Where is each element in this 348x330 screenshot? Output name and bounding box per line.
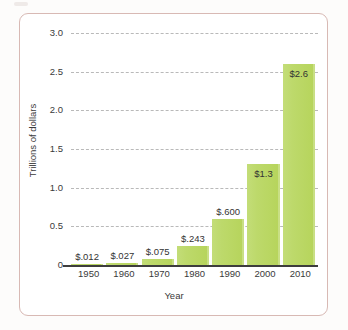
- x-axis-tick-label-2010: 2010: [283, 268, 318, 279]
- bar-2000: [247, 164, 279, 265]
- bar-1950: [71, 264, 103, 265]
- y-axis-label: Trillions of dollars: [27, 86, 38, 196]
- x-axis-tick-label-1970: 1970: [142, 268, 177, 279]
- gridline: [71, 33, 318, 34]
- y-axis-tick-label: 1.5: [23, 143, 63, 154]
- x-axis-tick-label-1950: 1950: [71, 268, 106, 279]
- gridline: [71, 110, 318, 111]
- x-axis-tick-label-1990: 1990: [212, 268, 247, 279]
- y-axis-tick-label: 0.5: [23, 220, 63, 231]
- y-axis-tick-label: 2.0: [23, 104, 63, 115]
- bar-2010: [283, 64, 315, 265]
- bar-value-label-1990: $.600: [206, 206, 250, 217]
- bar-value-label-1970: $.075: [136, 246, 180, 257]
- x-axis-label: Year: [0, 290, 348, 301]
- y-axis-tick-label: 0: [23, 259, 63, 270]
- gridline: [71, 226, 318, 227]
- y-axis-tick-label: 3.0: [23, 27, 63, 38]
- y-axis-tick-label: 2.5: [23, 66, 63, 77]
- x-axis-tick-label-1960: 1960: [106, 268, 141, 279]
- bar-1990: [212, 219, 244, 265]
- x-axis-baseline: [63, 265, 318, 267]
- x-axis-tick-label-1980: 1980: [177, 268, 212, 279]
- bar-1960: [106, 263, 138, 265]
- bar-1980: [177, 246, 209, 265]
- x-axis-tick-label-2000: 2000: [247, 268, 282, 279]
- gridline: [71, 149, 318, 150]
- gridline: [71, 188, 318, 189]
- chart-figure: Trillions of dollars Year 00.51.01.52.02…: [0, 0, 348, 330]
- plot-area: Trillions of dollars Year 00.51.01.52.02…: [0, 0, 348, 330]
- bar-value-label-2010: $2.6: [277, 68, 321, 79]
- bar-value-label-2000: $1.3: [241, 168, 285, 179]
- bar-1970: [142, 259, 174, 265]
- y-axis-tick-label: 1.0: [23, 182, 63, 193]
- bar-value-label-1980: $.243: [171, 233, 215, 244]
